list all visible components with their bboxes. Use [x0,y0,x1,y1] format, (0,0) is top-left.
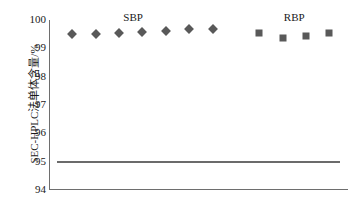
data-point-rbp [302,33,309,40]
y-tick-label: 97 [22,99,46,110]
data-point-sbp [137,27,147,37]
series-label-sbp: SBP [123,11,143,23]
plot-area: SBPRBP [49,20,348,190]
x-axis-line [49,189,348,190]
series-label-rbp: RBP [284,11,305,23]
data-point-sbp [114,28,124,38]
reference-line-spec-limit [57,161,340,163]
data-point-sbp [184,24,194,34]
y-tick-label: 99 [22,42,46,53]
sec-hplc-monomer-content-chart: SEC-HPLC法单体含量/% 100999897969594 SBPRBP [0,0,355,205]
y-tick-label: 98 [22,71,46,82]
data-point-rbp [256,29,263,36]
data-point-sbp [67,29,77,39]
data-point-rbp [326,29,333,36]
y-tick-label: 96 [22,127,46,138]
y-tick-label: 95 [22,156,46,167]
y-tick-label: 100 [22,14,46,25]
y-axis-tick-labels: 100999897969594 [20,0,46,205]
data-point-sbp [161,26,171,36]
data-point-sbp [208,24,218,34]
y-axis-line [49,20,50,190]
data-point-sbp [91,29,101,39]
y-tick-label: 94 [22,184,46,195]
data-point-rbp [279,34,286,41]
